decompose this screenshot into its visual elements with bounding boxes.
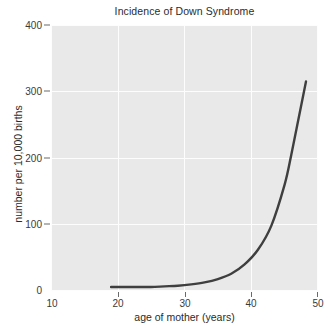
x-tick-mark	[118, 292, 119, 297]
y-tick-mark	[44, 158, 50, 159]
chart-title: Incidence of Down Syndrome	[51, 5, 318, 17]
x-tick-label: 10	[46, 298, 57, 309]
y-axis-title: number per 10,000 births	[12, 64, 24, 264]
y-tick-label: 0	[36, 285, 42, 296]
y-tick-label: 200	[25, 153, 42, 164]
x-tick-label: 40	[245, 298, 256, 309]
plot-panel	[51, 25, 318, 291]
y-tick-label: 400	[25, 20, 42, 31]
x-tick-label: 30	[179, 298, 190, 309]
incidence-curve	[111, 82, 306, 288]
data-series-line	[51, 25, 318, 291]
y-tick-mark	[44, 91, 50, 92]
y-tick-mark	[44, 224, 50, 225]
x-tick-mark	[251, 292, 252, 297]
x-tick-label: 50	[312, 298, 323, 309]
x-tick-mark	[317, 292, 318, 297]
y-tick-label: 300	[25, 86, 42, 97]
y-tick-mark	[44, 25, 50, 26]
y-tick-label: 100	[25, 219, 42, 230]
chart-container: Incidence of Down Syndrome 400 300 200 1…	[0, 0, 330, 329]
x-tick-mark	[185, 292, 186, 297]
x-tick-label: 20	[112, 298, 123, 309]
x-axis-title: age of mother (years)	[51, 311, 318, 323]
